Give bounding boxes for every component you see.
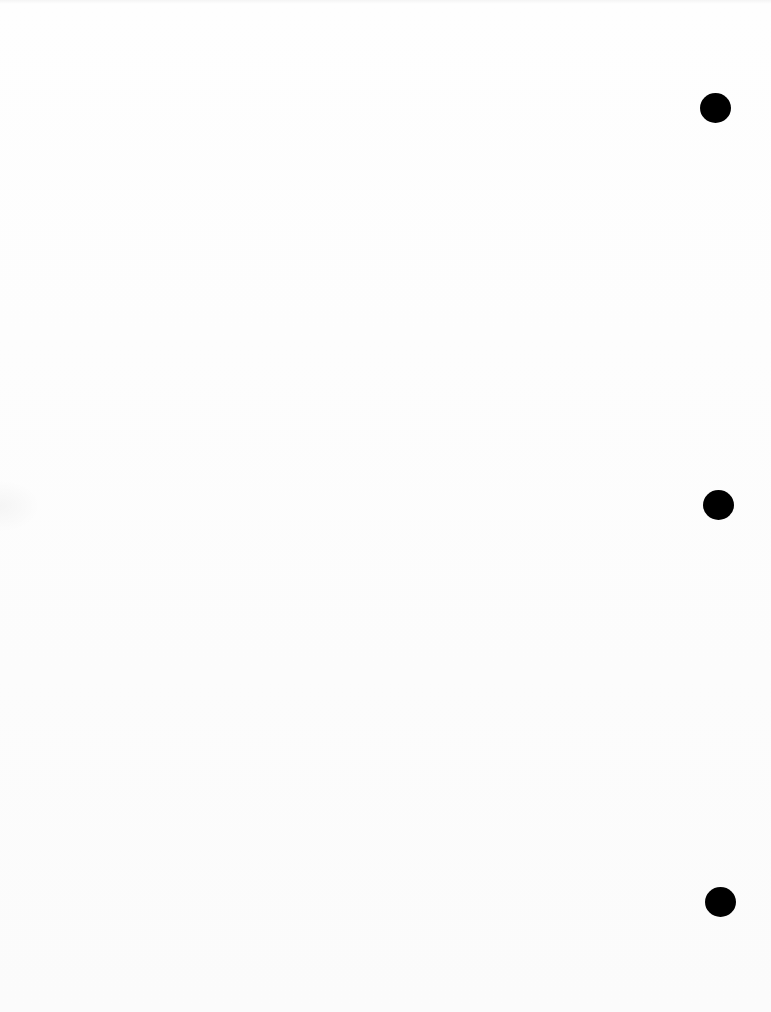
punch-hole-top (700, 93, 731, 123)
punch-hole-bottom (705, 887, 736, 917)
punch-hole-middle (703, 490, 734, 520)
scan-edge-shadow (0, 0, 771, 4)
blank-page (0, 0, 771, 1012)
